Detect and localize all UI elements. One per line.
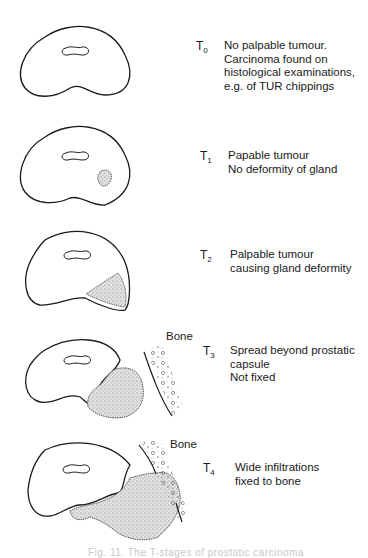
stage-code-t0: T0	[196, 39, 208, 55]
stage-code-t3: T3	[203, 344, 215, 360]
stage-description-t4: Wide infiltrations fixed to bone	[235, 461, 319, 488]
gland-t4	[28, 439, 188, 540]
figure-caption: Fig. 11. The T-stages of prostatic carci…	[88, 547, 304, 558]
gland-t0	[21, 26, 130, 96]
gland-t1	[21, 126, 130, 205]
gland-t3	[26, 340, 182, 418]
stage-code-t2: T2	[200, 248, 212, 264]
stage-description-t0: No palpable tumour. Carcinoma found on h…	[224, 39, 355, 93]
bone-label-t3: Bone	[166, 330, 193, 342]
tnm-staging-diagram: T0 No palpable tumour. Carcinoma found o…	[0, 0, 368, 558]
gland-t2	[26, 231, 130, 310]
bone-label-t4: Bone	[170, 438, 197, 450]
stage-code-t1: T1	[200, 149, 212, 165]
stage-description-t3: Spread beyond prostatic capsule Not fixe…	[230, 344, 355, 385]
stage-code-t4: T4	[203, 461, 215, 477]
stage-description-t2: Palpable tumour causing gland deformity	[230, 248, 351, 275]
stage-description-t1: Papable tumour No deformity of gland	[228, 149, 337, 176]
